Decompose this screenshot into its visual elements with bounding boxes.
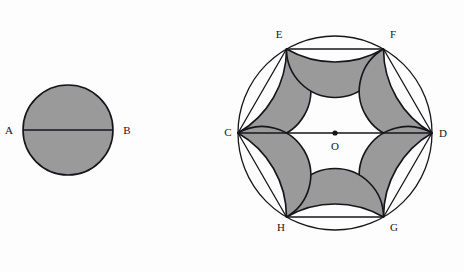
geometry-canvas: ABCEFDOGH (0, 0, 464, 272)
point-label-F: F (390, 28, 396, 40)
lune-FD (359, 49, 432, 139)
point-label-A: A (5, 124, 13, 136)
left-figure-group (23, 85, 113, 175)
right-figure-group (238, 36, 432, 230)
lune-HC (238, 127, 311, 217)
point-label-O: O (331, 140, 339, 152)
point-label-D: D (439, 127, 447, 139)
center-point-o (332, 130, 337, 135)
point-label-H: H (277, 221, 285, 233)
point-label-E: E (276, 28, 283, 40)
point-label-C: C (224, 126, 231, 138)
point-label-G: G (390, 221, 398, 233)
geometry-figure: ABCEFDOGH (0, 0, 464, 272)
point-label-B: B (123, 124, 130, 136)
